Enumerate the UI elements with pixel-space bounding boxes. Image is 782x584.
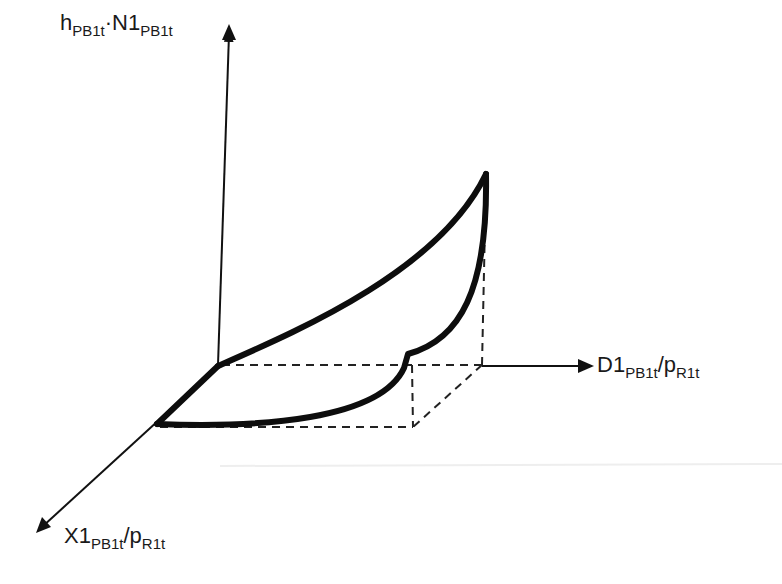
horizontal-axis-label-sub2: R1t [676,364,699,381]
diagram-canvas [0,0,782,584]
vertical-axis-label-sub2: PB1t [140,22,173,39]
vertical-axis-label-dot: · [105,10,112,35]
front-edge [157,366,218,424]
scan-artifact [220,464,782,466]
upper-curve [218,174,486,366]
vertical-axis-arrowhead [222,24,236,40]
vertical-axis-label: hPB1t·N1PB1t [60,12,173,38]
depth-axis-label-sub1: PB1t [91,535,124,552]
depth-axis-label-main2: p [130,523,142,548]
vertical-axis [218,34,229,365]
vertical-axis-label-sub1: PB1t [72,22,105,39]
projection-box [160,225,485,427]
horizontal-axis-label-sub1: PB1t [625,364,658,381]
horizontal-axis-arrowhead [578,359,594,373]
vertical-axis-label-main: h [60,10,72,35]
horizontal-axis-label-main: D1 [597,352,625,377]
vertical-axis-label-main2: N1 [112,10,140,35]
lower-curve [157,174,486,425]
depth-axis-arrowhead [36,517,51,533]
depth-axis-label-sub2: R1t [142,535,165,552]
depth-axis-label: X1PB1t/pR1t [64,525,165,551]
surface-curve [157,174,486,425]
depth-axis-label-main: X1 [64,523,91,548]
horizontal-axis-label: D1PB1t/pR1t [597,354,699,380]
horizontal-axis-label-main2: p [664,352,676,377]
